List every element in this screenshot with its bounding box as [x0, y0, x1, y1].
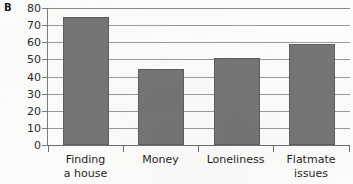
x-axis-line: [48, 145, 350, 146]
y-tick-label-0: 0: [1, 140, 41, 151]
y-tick-label-30: 30: [1, 89, 41, 100]
bars-layer: [48, 8, 350, 145]
x-label-flatmate-issues: Flatmate issues: [273, 153, 349, 181]
x-tick-mark-1: [123, 146, 124, 152]
y-tick-label-50: 50: [1, 54, 41, 65]
bar-chart-figure: B 80 70 60 50 40 30 20 10 0: [0, 0, 353, 184]
x-label-line-2: issues: [273, 167, 349, 181]
x-label-finding-a-house: Finding a house: [48, 153, 123, 181]
bar-flatmate-issues[interactable]: [289, 44, 335, 145]
y-tick-label-70: 70: [1, 20, 41, 31]
bar-money[interactable]: [138, 69, 184, 145]
x-label-line-1: Finding: [48, 153, 123, 167]
x-tick-mark-3: [273, 146, 274, 152]
y-axis-tick-labels: 80 70 60 50 40 30 20 10 0: [0, 0, 41, 184]
bar-finding-a-house[interactable]: [63, 17, 109, 145]
x-tick-mark-0: [48, 146, 49, 152]
x-label-line-1: Money: [123, 153, 198, 167]
x-tick-mark-2: [198, 146, 199, 152]
y-tick-label-80: 80: [1, 3, 41, 14]
x-tick-mark-4: [349, 146, 350, 152]
y-tick-label-20: 20: [1, 106, 41, 117]
x-label-line-1: Flatmate: [273, 153, 349, 167]
x-label-money: Money: [123, 153, 198, 167]
y-tick-label-60: 60: [1, 37, 41, 48]
x-label-line-2: a house: [48, 167, 123, 181]
y-tick-label-40: 40: [1, 72, 41, 83]
bar-loneliness[interactable]: [214, 58, 260, 145]
y-tick-label-10: 10: [1, 123, 41, 134]
x-label-loneliness: Loneliness: [196, 153, 275, 167]
x-label-line-1: Loneliness: [196, 153, 275, 167]
